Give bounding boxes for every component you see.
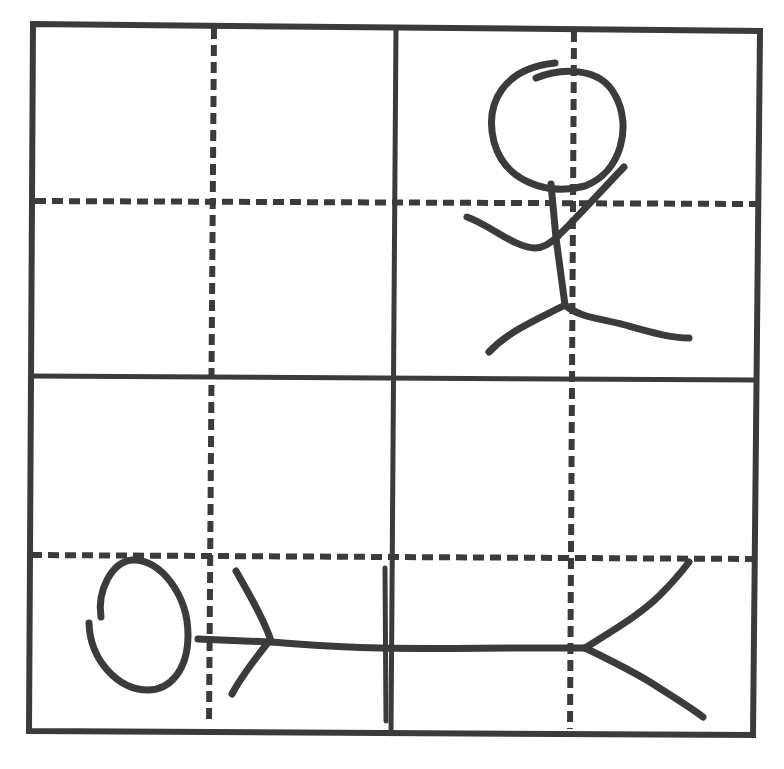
upper-leg bbox=[585, 562, 689, 648]
right-leg bbox=[565, 305, 689, 338]
lower-leg bbox=[585, 648, 703, 717]
left-leg bbox=[489, 305, 565, 352]
head-icon bbox=[492, 63, 623, 189]
left-arm bbox=[467, 217, 558, 248]
dashed-horizontal-top bbox=[35, 201, 756, 204]
lower-arm bbox=[232, 640, 270, 694]
vertical-tick bbox=[385, 568, 386, 721]
drawing-canvas bbox=[0, 0, 784, 769]
head-icon bbox=[89, 560, 188, 690]
upper-arm bbox=[236, 571, 270, 638]
lying-stick-figure bbox=[89, 560, 703, 721]
standing-stick-figure bbox=[467, 63, 689, 352]
dashed-vertical-right bbox=[570, 31, 574, 729]
dashed-vertical-left bbox=[209, 28, 214, 724]
major-horizontal-divider bbox=[31, 376, 757, 380]
